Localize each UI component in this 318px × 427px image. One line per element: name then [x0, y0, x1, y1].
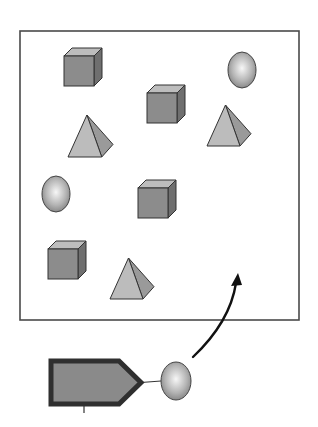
cube-front-face: [48, 249, 78, 279]
agent-sphere-icon: [161, 362, 191, 400]
sphere-icon: [228, 52, 256, 88]
pyramid-icon: [68, 115, 113, 157]
cube-icon: [138, 180, 176, 218]
diagram-canvas: [0, 0, 318, 427]
pyramid-icon: [207, 105, 251, 146]
cube-icon: [147, 85, 185, 123]
sphere-body: [42, 176, 70, 212]
cube-front-face: [147, 93, 177, 123]
cube-front-face: [138, 188, 168, 218]
cube-icon: [64, 48, 102, 86]
arrow-head-icon: [231, 273, 242, 286]
cube-front-face: [64, 56, 94, 86]
agent-pentagon-icon: [51, 361, 141, 404]
sphere-body: [228, 52, 256, 88]
pyramid-icon: [110, 258, 154, 299]
sphere-icon: [42, 176, 70, 212]
cube-icon: [48, 241, 86, 279]
